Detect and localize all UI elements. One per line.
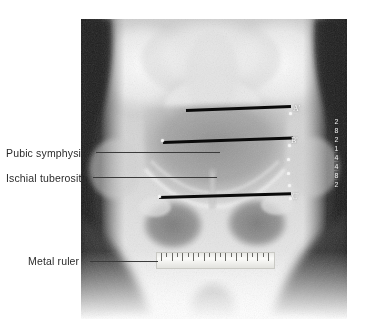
ruler-tick-minor (177, 253, 178, 257)
leader-line-pubic-symphysis (96, 152, 220, 153)
annotation-label-ischial-tuberosity: Ischial tuberosity (6, 173, 87, 184)
landmark-point-mid-1 (287, 158, 290, 161)
metal-ruler (156, 252, 275, 269)
landmark-label-b-prime: B' (291, 137, 298, 145)
landmark-label-c-prime: C' (292, 193, 299, 201)
radiograph-image (81, 19, 347, 319)
ruler-tick-major (204, 253, 205, 261)
film-id-char: 8 (334, 171, 340, 179)
ruler-tick-major (161, 253, 162, 261)
ruler-tick-marks (157, 253, 274, 268)
landmark-point-b-prime (288, 144, 291, 147)
film-id-char: 1 (334, 144, 340, 152)
leader-line-ischial-tuberosity (93, 177, 217, 178)
landmark-label-a-prime: A' (293, 105, 300, 113)
landmark-point-mid-2 (287, 172, 290, 175)
landmark-point-mid-3 (288, 184, 291, 187)
film-id-marks: 28214482 (331, 117, 342, 188)
ruler-tick-major (257, 253, 258, 261)
ruler-tick-minor (166, 253, 167, 257)
ruler-tick-minor (231, 253, 232, 257)
ruler-tick-major (268, 253, 269, 261)
landmark-point-c-prime (289, 197, 292, 200)
film-id-char: 4 (334, 162, 340, 170)
ruler-tick-minor (263, 253, 264, 257)
ruler-tick-minor (252, 253, 253, 257)
film-id-char: 2 (334, 180, 340, 188)
landmark-point-b-left (161, 139, 164, 142)
figure-canvas: A' B' C' 28214482 Pubic symphysis Ischia… (0, 0, 365, 324)
annotation-label-pubic-symphysis: Pubic symphysis (6, 148, 86, 159)
ruler-tick-minor (220, 253, 221, 257)
ruler-tick-minor (241, 253, 242, 257)
annotation-label-metal-ruler: Metal ruler (28, 256, 79, 267)
ruler-tick-minor (209, 253, 210, 257)
ruler-tick-major (193, 253, 194, 261)
ruler-tick-major (236, 253, 237, 261)
leader-line-metal-ruler (90, 261, 158, 262)
landmark-point-c-left (158, 195, 161, 198)
ruler-tick-minor (198, 253, 199, 257)
film-id-char: 4 (334, 153, 340, 161)
ruler-tick-major (247, 253, 248, 261)
film-id-char: 2 (334, 135, 340, 143)
film-id-char: 8 (334, 126, 340, 134)
ruler-tick-major (182, 253, 183, 261)
ruler-tick-major (215, 253, 216, 261)
landmark-point-a-prime (289, 112, 292, 115)
radiograph-svg (81, 19, 347, 319)
ruler-tick-major (225, 253, 226, 261)
ruler-tick-minor (188, 253, 189, 257)
film-id-char: 2 (334, 117, 340, 125)
ruler-tick-major (172, 253, 173, 261)
